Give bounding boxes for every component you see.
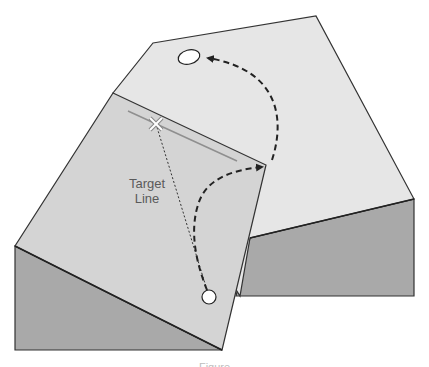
figure-caption: Figure — [0, 361, 429, 367]
slope-diagram — [0, 0, 429, 367]
diagram-canvas: Target Line Figure — [0, 0, 429, 367]
target-line-label-line1: Target — [112, 176, 182, 191]
ball-marker — [202, 290, 216, 304]
target-line-label: Target Line — [112, 176, 182, 206]
target-line-label-line2: Line — [112, 191, 182, 206]
